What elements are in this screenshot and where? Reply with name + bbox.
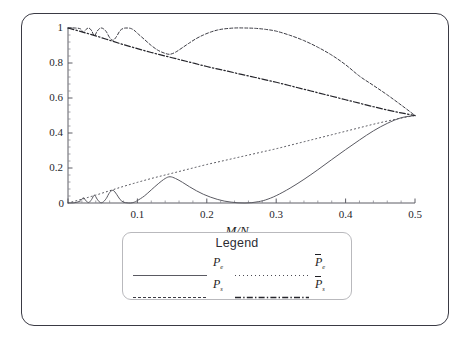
legend-label: Ps (213, 277, 223, 292)
y-tick-label: 0.8 (36, 56, 63, 68)
legend-entry[interactable]: Ps (133, 277, 233, 295)
x-tick-label: 0.2 (196, 208, 218, 220)
x-tick-label: 0 (52, 197, 64, 209)
series-layer (68, 28, 415, 203)
figure-container: 00.10.20.30.40.50.20.40.60.81 M/N Legend… (0, 0, 471, 346)
legend-line-sample (235, 285, 309, 287)
axis-layer (68, 28, 415, 203)
legend-title: Legend (123, 236, 351, 250)
legend-label: Ps (315, 277, 325, 292)
x-tick-label: 0.1 (126, 208, 148, 220)
legend-line-sample (133, 263, 207, 265)
legend-label: Pe (213, 255, 223, 270)
y-tick-label: 0.4 (36, 126, 63, 138)
legend-line-sample (133, 285, 207, 287)
x-tick-label: 0.3 (265, 208, 287, 220)
y-tick-label: 0.2 (36, 161, 63, 173)
legend-label: Pe (315, 255, 325, 270)
legend-box: Legend PePsPePs (122, 232, 352, 300)
legend-entry[interactable]: Pe (133, 255, 233, 273)
series-Pbar_s (68, 28, 415, 116)
y-tick-label: 1 (36, 21, 63, 33)
series-P_s (68, 28, 415, 116)
series-Pbar_e (68, 116, 415, 204)
legend-entry[interactable]: Ps (235, 277, 335, 295)
x-tick-label: 0.5 (404, 208, 426, 220)
y-tick-label: 0.6 (36, 91, 63, 103)
legend-line-sample (235, 263, 309, 265)
legend-entry[interactable]: Pe (235, 255, 335, 273)
x-tick-label: 0.4 (335, 208, 357, 220)
series-P_e (68, 116, 415, 204)
